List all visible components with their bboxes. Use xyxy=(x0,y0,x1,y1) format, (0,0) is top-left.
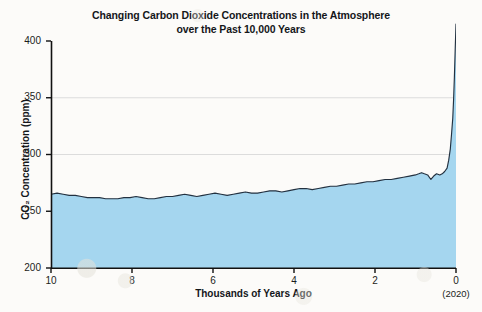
co2-area-series xyxy=(51,24,456,268)
x-tick-label-10: 10 xyxy=(31,275,71,286)
y-tick-label-250: 250 xyxy=(7,205,41,216)
x-tick-label-0: 0 xyxy=(436,275,476,286)
x-tick-label-8: 8 xyxy=(112,275,152,286)
y-axis-ticks xyxy=(46,41,51,268)
chart-plot-area xyxy=(0,0,482,312)
x-tick-label-6: 6 xyxy=(193,275,233,286)
x-tick-label-2: 2 xyxy=(355,275,395,286)
x-axis-title: Thousands of Years Ago xyxy=(51,288,456,299)
co2-area-fill xyxy=(51,24,456,268)
y-tick-label-200: 200 xyxy=(7,262,41,273)
x-axis-year-note: (2020) xyxy=(426,288,482,299)
y-tick-label-300: 300 xyxy=(7,148,41,159)
y-tick-label-350: 350 xyxy=(7,91,41,102)
co2-line xyxy=(51,24,456,199)
y-tick-label-400: 400 xyxy=(7,35,41,46)
chart-root: Changing Carbon Dioxide Concentrations i… xyxy=(0,0,482,312)
x-tick-label-4: 4 xyxy=(274,275,314,286)
